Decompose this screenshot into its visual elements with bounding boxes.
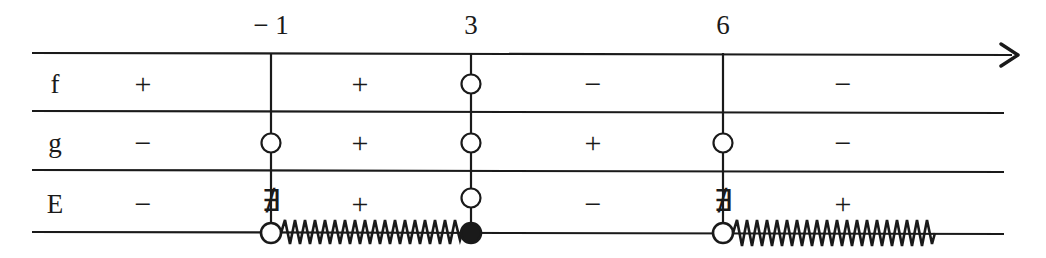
tick-label-six: 6 — [716, 12, 730, 39]
row-label-E: E — [47, 191, 64, 218]
row-f-markers — [462, 75, 481, 94]
marker-g-three-open-circle — [462, 134, 481, 153]
marker-E-three-open-circle — [462, 189, 481, 208]
sign-g-interval-3: + — [585, 128, 602, 158]
sign-g-interval-4: − — [835, 128, 852, 158]
tick-label-neg-one: − 1 — [253, 12, 288, 39]
sign-g-interval-2: + — [352, 128, 369, 158]
sign-E-interval-4: + — [835, 189, 852, 219]
axis-line — [32, 53, 1012, 55]
not-exists-icon-neg-one: ∄ — [262, 186, 281, 216]
marker-g-neg-one-open-circle — [262, 134, 281, 153]
row-label-g: g — [48, 130, 62, 157]
endpoint-neg-one-open-circle — [261, 223, 281, 243]
row-g-markers — [262, 134, 733, 153]
sign-chart-graphics — [0, 0, 1046, 258]
marker-f-three-open-circle — [462, 75, 481, 94]
sign-f-interval-4: − — [835, 69, 852, 99]
sign-E-interval-1: − — [135, 189, 152, 219]
sign-g-interval-1: − — [135, 128, 152, 158]
sign-f-interval-1: + — [135, 69, 152, 99]
sign-chart: − 1 3 6 f g E + + − − − + + − − + − + ∄ … — [0, 0, 1046, 258]
tick-label-three: 3 — [464, 12, 478, 39]
zigzag-six-to-end — [733, 220, 935, 246]
rule-g-bottom — [32, 170, 1004, 172]
rule-f-bottom — [32, 111, 1004, 113]
not-exists-icon-six: ∄ — [714, 186, 733, 216]
marker-g-six-open-circle — [714, 134, 733, 153]
row-E-markers — [462, 189, 481, 208]
endpoint-six-open-circle — [713, 223, 733, 243]
horizontal-rules — [32, 44, 1018, 234]
sign-E-interval-2: + — [352, 189, 369, 219]
endpoint-three-filled-circle — [461, 223, 481, 243]
sign-f-interval-2: + — [352, 69, 369, 99]
sign-E-interval-3: − — [585, 189, 602, 219]
vertical-dividers — [271, 53, 723, 233]
sign-f-interval-3: − — [585, 69, 602, 99]
row-label-f: f — [51, 71, 60, 98]
